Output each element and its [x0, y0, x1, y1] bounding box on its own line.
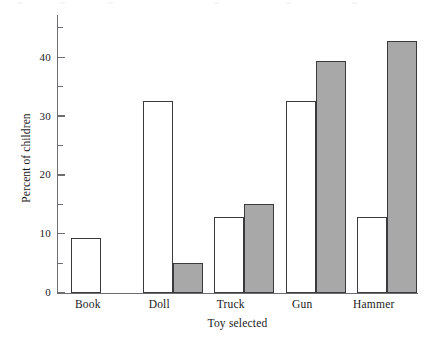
x-axis-label-doll: Doll: [122, 298, 198, 310]
bar-doll-dark: [173, 263, 203, 292]
y-axis-minor-tick: [57, 263, 63, 264]
x-axis-label-truck: Truck: [193, 298, 269, 310]
bar-chart-figure: 010203040 Percent of children BookDollTr…: [0, 0, 426, 338]
bar-doll-light: [143, 101, 173, 292]
bar-hammer-light: [357, 217, 387, 292]
bar-hammer-dark: [387, 41, 417, 292]
plot-area: 010203040 Percent of children BookDollTr…: [0, 0, 426, 338]
y-axis-minor-tick: [57, 204, 63, 205]
y-axis-minor-tick: [57, 145, 63, 146]
x-axis-line: [57, 293, 418, 294]
bar-book-light: [71, 238, 101, 293]
y-axis-tick-label: 0: [7, 287, 51, 298]
bar-gun-light: [286, 101, 316, 292]
bar-truck-dark: [244, 204, 274, 293]
y-axis-tick-label: 40: [7, 52, 51, 63]
x-axis-label-gun: Gun: [265, 298, 341, 310]
y-axis-major-tick: [57, 292, 65, 293]
y-axis-major-tick: [57, 233, 65, 234]
y-axis-title: Percent of children: [20, 78, 32, 238]
y-axis-major-tick: [57, 57, 65, 58]
y-axis-minor-tick: [57, 86, 63, 87]
x-axis-title: Toy selected: [57, 317, 418, 329]
y-axis-major-tick: [57, 174, 65, 175]
x-axis-label-book: Book: [50, 298, 126, 310]
bar-truck-light: [214, 217, 244, 292]
y-axis-major-tick: [57, 115, 65, 116]
x-axis-label-hammer: Hammer: [336, 298, 412, 310]
bar-gun-dark: [316, 61, 346, 293]
y-axis-minor-tick: [57, 27, 63, 28]
